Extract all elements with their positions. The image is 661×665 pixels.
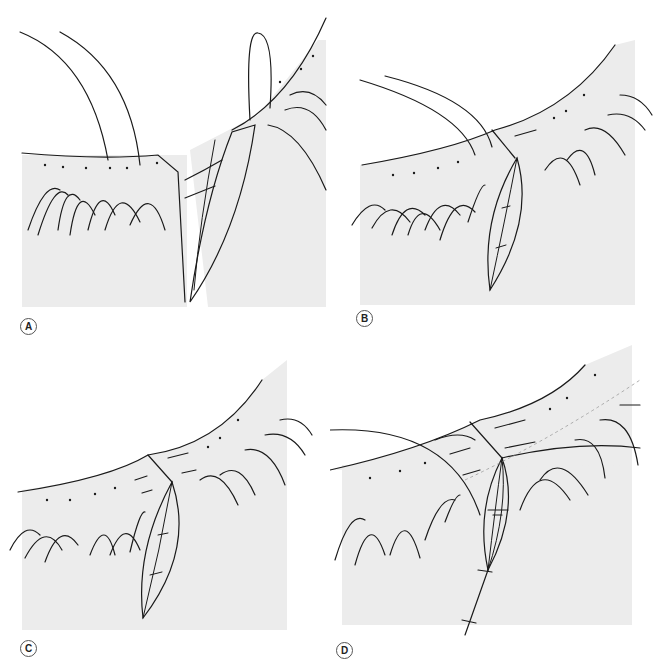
panel-c-drawing xyxy=(0,330,330,665)
panel-a: A xyxy=(0,0,330,330)
panel-label-c: C xyxy=(20,640,37,657)
panel-b: B xyxy=(330,0,661,330)
panel-c: C xyxy=(0,330,330,665)
panel-d: D xyxy=(330,330,661,665)
panel-d-drawing xyxy=(330,330,661,665)
panel-a-drawing xyxy=(0,0,330,330)
panel-label-b: B xyxy=(356,310,373,327)
panel-label-d: D xyxy=(336,642,353,659)
panel-b-drawing xyxy=(330,0,661,330)
